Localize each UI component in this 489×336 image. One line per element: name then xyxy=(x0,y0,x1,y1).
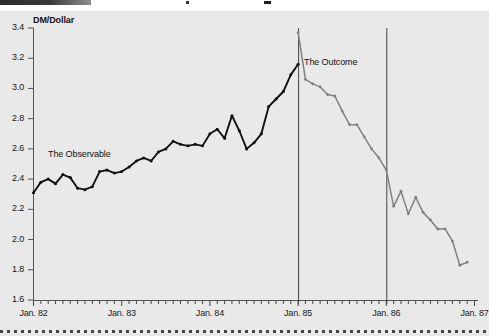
x-tick-label: Jan. 84 xyxy=(184,308,236,318)
data-point xyxy=(194,143,197,146)
x-tick-label: Jan. 83 xyxy=(96,308,148,318)
data-point xyxy=(142,156,145,159)
data-point xyxy=(135,159,138,162)
data-point xyxy=(414,196,417,199)
data-point xyxy=(436,228,439,231)
data-point xyxy=(466,261,469,264)
y-tick-label: 2.2 xyxy=(0,203,24,213)
data-point xyxy=(333,95,336,98)
data-point xyxy=(267,105,270,108)
data-point xyxy=(451,240,454,243)
data-point xyxy=(400,190,403,193)
data-point xyxy=(429,219,432,222)
cropped-title-bar xyxy=(0,0,91,5)
data-point xyxy=(319,86,322,89)
data-point xyxy=(172,140,175,143)
data-point xyxy=(223,137,226,140)
chart-panel: DM/Dollar 1.61.82.02.22.42.62.83.03.23.4… xyxy=(0,11,489,336)
series-observable xyxy=(32,63,300,194)
figure-page: DM/Dollar 1.61.82.02.22.42.62.83.03.23.4… xyxy=(0,0,489,336)
data-point xyxy=(392,205,395,208)
data-point xyxy=(179,143,182,146)
data-point xyxy=(297,63,300,66)
data-point xyxy=(297,31,300,34)
data-point xyxy=(76,187,79,190)
data-point xyxy=(238,129,241,132)
data-point xyxy=(83,188,86,191)
cropped-text-fleck xyxy=(186,1,189,4)
data-point xyxy=(91,185,94,188)
data-point xyxy=(164,147,167,150)
data-point xyxy=(208,132,211,135)
data-point xyxy=(385,169,388,172)
data-point xyxy=(282,90,285,93)
cropped-dotted-rule xyxy=(0,330,489,333)
data-point xyxy=(245,147,248,150)
y-tick-label: 2.6 xyxy=(0,143,24,153)
annotation-the-observable: The Observable xyxy=(48,149,111,159)
data-point xyxy=(69,176,72,179)
data-point xyxy=(304,78,307,81)
data-point xyxy=(157,150,160,153)
y-tick-label: 2.4 xyxy=(0,173,24,183)
data-point xyxy=(348,123,351,126)
data-point xyxy=(341,110,344,113)
cropped-text-fleck xyxy=(264,1,271,4)
data-point xyxy=(363,135,366,138)
data-point xyxy=(61,173,64,176)
data-point xyxy=(113,172,116,175)
data-point xyxy=(120,170,123,173)
data-point xyxy=(47,178,50,181)
data-point xyxy=(260,132,263,135)
data-point xyxy=(128,166,131,169)
y-tick-label: 1.6 xyxy=(0,294,24,304)
data-point xyxy=(370,147,373,150)
data-point xyxy=(150,159,153,162)
data-point xyxy=(326,93,329,96)
reference-lines xyxy=(299,28,387,304)
x-tick-label: Jan. 82 xyxy=(8,308,60,318)
data-point xyxy=(32,191,35,194)
y-tick-label: 3.4 xyxy=(0,22,24,32)
y-tick-label: 3.0 xyxy=(0,82,24,92)
x-tick-label: Jan. 85 xyxy=(272,308,324,318)
data-point xyxy=(201,144,204,147)
data-point xyxy=(230,114,233,117)
data-point xyxy=(98,170,101,173)
data-point xyxy=(54,182,57,185)
data-point xyxy=(378,157,381,160)
data-point xyxy=(444,228,447,231)
line-chart-svg xyxy=(0,11,489,336)
data-point xyxy=(356,123,359,126)
axis-lines xyxy=(34,28,479,301)
y-tick-label: 2.8 xyxy=(0,113,24,123)
x-tick-marks xyxy=(34,301,475,307)
data-point xyxy=(407,212,410,215)
data-point xyxy=(39,181,42,184)
data-point xyxy=(186,144,189,147)
data-point xyxy=(216,128,219,131)
y-tick-label: 2.0 xyxy=(0,234,24,244)
y-tick-label: 3.2 xyxy=(0,52,24,62)
data-point xyxy=(311,83,314,86)
annotation-the-outcome: The Outcome xyxy=(304,57,357,67)
x-tick-label: Jan. 87 xyxy=(449,308,489,318)
y-axis-title: DM/Dollar xyxy=(33,15,74,25)
y-tick-marks xyxy=(28,28,34,300)
data-point xyxy=(106,169,109,172)
data-point xyxy=(275,98,278,101)
y-tick-label: 1.8 xyxy=(0,264,24,274)
series-line xyxy=(34,64,299,192)
data-point xyxy=(458,264,461,267)
x-tick-label: Jan. 86 xyxy=(360,308,412,318)
data-point xyxy=(289,73,292,76)
series-line xyxy=(298,33,467,266)
data-point xyxy=(422,211,425,214)
data-point xyxy=(253,141,256,144)
